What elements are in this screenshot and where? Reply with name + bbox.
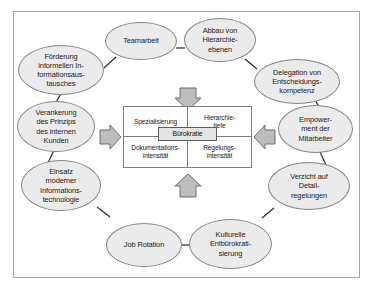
- node-label: KulturelleEntbürokrati-sierung: [192, 230, 269, 258]
- node-empowerment-mitarbeiter: Empower-ment derMitarbeiter: [278, 105, 353, 153]
- node-label: Teamarbeit: [108, 36, 174, 45]
- node-kulturelle-entbuerokratisierung: KulturelleEntbürokrati-sierung: [189, 219, 272, 269]
- node-verzicht-detailregelungen: Verzicht aufDetail-regelungen: [268, 162, 350, 210]
- center-label-text: Bürokratie: [173, 130, 203, 138]
- node-label: Delegation vonEntscheidungs-kompetenz: [257, 68, 337, 96]
- node-einsatz-informationstechnologie: EinsatzmodernerInformations-technologie: [21, 160, 101, 211]
- center-label-buerokratie: Bürokratie: [158, 127, 217, 141]
- node-verankerung-interner-kunde: Verankerungdes Prinzipsdes internenKunde…: [17, 101, 95, 152]
- node-foerderung-informationsaustausch: Förderunginformellen In-formationsaus-ta…: [18, 45, 104, 95]
- node-label: Verzicht aufDetail-regelungen: [271, 172, 347, 200]
- quadrant-label: Spezialisierung: [134, 118, 177, 126]
- node-label: EinsatzmodernerInformations-technologie: [24, 167, 98, 204]
- diagram-canvas: Spezialisierung Hierarchie-tiefe Dokumen…: [0, 0, 375, 293]
- node-teamarbeit: Teamarbeit: [105, 22, 177, 60]
- node-label: Empower-ment derMitarbeiter: [281, 115, 350, 143]
- quadrant-label: Dokumentations-intensität: [131, 144, 179, 160]
- node-label: Job Rotation: [109, 240, 179, 249]
- node-abbau-hierarchieebenen: Abbau vonHierarchie-ebenen: [184, 18, 256, 62]
- node-job-rotation: Job Rotation: [106, 223, 182, 267]
- node-delegation-entscheidungskompetenz: Delegation vonEntscheidungs-kompetenz: [254, 59, 340, 104]
- node-label: Abbau vonHierarchie-ebenen: [187, 26, 253, 54]
- node-label: Verankerungdes Prinzipsdes internenKunde…: [20, 108, 92, 145]
- node-label: Förderunginformellen In-formationsaus-ta…: [21, 52, 101, 89]
- quadrant-label: Regelungs-intensität: [203, 144, 236, 160]
- buerokratie-center-box: Spezialisierung Hierarchie-tiefe Dokumen…: [123, 106, 252, 168]
